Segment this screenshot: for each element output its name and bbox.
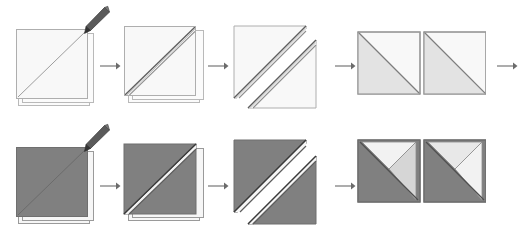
diagram-row-grey bbox=[0, 118, 524, 235]
arrow-step3-to-step4-icon bbox=[334, 60, 356, 72]
diagonal-crease-line bbox=[17, 30, 87, 98]
napkin-face bbox=[124, 26, 196, 96]
arrow-step2-to-step3-icon bbox=[207, 60, 229, 72]
step-1-flat-square-with-diagonal-crease bbox=[6, 0, 106, 117]
result-square-b bbox=[424, 32, 486, 94]
step-4-two-folded-squares-result bbox=[356, 118, 486, 235]
result-squares bbox=[356, 118, 486, 235]
step-4-two-folded-squares-result bbox=[356, 0, 486, 117]
result-square-a bbox=[358, 140, 420, 202]
arrow-row-continue-icon bbox=[496, 60, 518, 72]
step-2-single-diagonal-fold bbox=[118, 0, 214, 117]
result-square-a bbox=[358, 32, 420, 94]
pen-icon bbox=[78, 122, 112, 156]
step-1-flat-square-with-diagonal-crease bbox=[6, 118, 106, 235]
diagonal-crease-line bbox=[17, 148, 87, 216]
step-3-double-diagonal-fold bbox=[228, 118, 332, 235]
napkin-face bbox=[228, 0, 332, 117]
arrow-step3-to-step4-icon bbox=[334, 180, 356, 192]
result-squares bbox=[356, 0, 486, 117]
result-square-b bbox=[424, 140, 486, 202]
diagram-row-white bbox=[0, 0, 524, 117]
arrow-step2-to-step3-icon bbox=[207, 180, 229, 192]
fold-band-single bbox=[125, 27, 195, 95]
napkin-face bbox=[118, 118, 214, 235]
step-3-double-diagonal-fold bbox=[228, 0, 332, 117]
napkin-face bbox=[228, 118, 332, 235]
napkin-face bbox=[16, 147, 88, 217]
step-2-single-diagonal-fold bbox=[118, 118, 214, 235]
napkin-folding-diagram bbox=[0, 0, 524, 235]
pen-icon bbox=[78, 4, 112, 38]
napkin-face bbox=[16, 29, 88, 99]
